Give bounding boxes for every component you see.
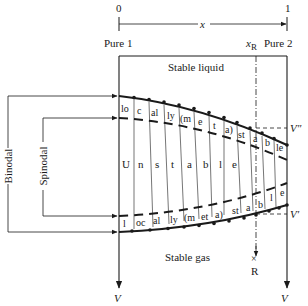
svg-text:l: l <box>270 192 273 203</box>
svg-text:st: st <box>238 129 245 140</box>
svg-text:e: e <box>280 187 285 198</box>
svg-text:al: al <box>151 107 158 118</box>
svg-text:a: a <box>253 133 258 144</box>
svg-text:a): a) <box>215 209 223 221</box>
axis-variable-label: x <box>199 18 205 30</box>
left-v-label: V <box>114 292 122 304</box>
binodal-label: Binodal <box>2 149 14 184</box>
axis-one-label: 1 <box>285 2 291 14</box>
point-r-mark: × <box>251 253 257 264</box>
svg-text:a: a <box>246 202 251 213</box>
v-double-prime-label: V″ <box>290 122 302 134</box>
svg-text:U: U <box>122 158 130 170</box>
svg-text:t: t <box>171 158 174 170</box>
svg-text:oc: oc <box>136 217 146 228</box>
pure-1-label: Pure 1 <box>104 37 132 49</box>
svg-text:st: st <box>232 205 239 216</box>
composition-axis: 0 1 x Pure 1 Pure 2 xR <box>104 2 292 52</box>
svg-text:b: b <box>265 137 270 148</box>
svg-text:(m: (m <box>184 212 195 224</box>
svg-text:et: et <box>201 211 208 222</box>
axis-zero-label: 0 <box>116 2 122 14</box>
svg-text:al: al <box>153 215 160 226</box>
svg-text:l: l <box>219 158 222 170</box>
svg-text:a): a) <box>225 124 233 136</box>
spinodal-bracket <box>43 118 117 216</box>
svg-text:ly: ly <box>170 214 178 225</box>
binodal-bracket <box>8 96 117 232</box>
svg-text:e: e <box>198 116 203 127</box>
right-v-label: V <box>281 292 289 304</box>
svg-text:c: c <box>137 105 142 116</box>
point-r-label: R <box>251 265 259 277</box>
x-r-label: xR <box>245 37 257 52</box>
spinodal-upper-curve <box>119 118 287 160</box>
spinodal-label: Spinodal <box>37 146 49 185</box>
svg-text:n: n <box>138 158 144 170</box>
svg-text:b: b <box>203 158 209 170</box>
svg-text:lo: lo <box>121 103 129 114</box>
svg-text:l: l <box>123 218 126 229</box>
svg-text:a: a <box>187 158 192 170</box>
pure-2-label: Pure 2 <box>264 37 292 49</box>
svg-text:le: le <box>276 142 284 153</box>
svg-text:b: b <box>258 199 263 210</box>
unstable-label: U n s t a b l e <box>122 158 237 170</box>
svg-text:t: t <box>213 120 216 131</box>
svg-text:s: s <box>155 158 159 170</box>
svg-text:(m: (m <box>180 113 191 125</box>
phase-stability-diagram: 0 1 x Pure 1 Pure 2 xR <box>0 0 308 306</box>
v-prime-label: V′ <box>290 208 300 220</box>
stable-liquid-label: Stable liquid <box>168 61 224 73</box>
svg-text:e: e <box>232 158 237 170</box>
stable-gas-label: Stable gas <box>165 251 210 263</box>
svg-text:ly: ly <box>167 110 175 121</box>
